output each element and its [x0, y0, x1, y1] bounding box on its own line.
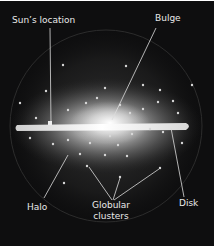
label-sun-location: Sun’s location	[12, 15, 75, 26]
label-globular-line2: clusters	[90, 211, 132, 222]
label-disk: Disk	[179, 198, 198, 209]
label-halo: Halo	[27, 202, 47, 213]
label-globular-clusters: Globular clusters	[90, 200, 132, 222]
label-globular-line1: Globular	[90, 200, 132, 211]
galaxy-diagram: Sun’s location Bulge Halo Globular clust…	[0, 1, 214, 246]
sun-marker	[48, 121, 52, 125]
bulge	[70, 101, 150, 145]
label-bulge: Bulge	[155, 13, 181, 24]
